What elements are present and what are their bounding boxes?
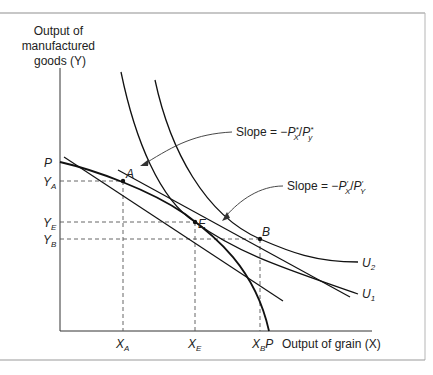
point-a-label: A: [125, 167, 134, 181]
u1-label: U1: [362, 287, 375, 303]
slope-leader-1: [146, 132, 232, 163]
dashed-guides: [60, 181, 260, 331]
y-tick-ya: YA: [43, 175, 56, 191]
y-axis-label: Output of manufactured goods (Y): [22, 24, 99, 68]
production-possibility-curve: [60, 162, 269, 331]
u2-label: U2: [362, 256, 376, 272]
y-tick-ye: YE: [43, 216, 57, 232]
y-tick-p: P: [44, 156, 52, 170]
point-e-label: E: [198, 217, 207, 231]
point-e: [193, 220, 197, 224]
x-tick-xa: XA: [115, 337, 129, 353]
slope-leader-2: [226, 186, 283, 216]
x-axis-label: Output of grain (X): [282, 337, 381, 351]
x-tick-xb: XBP: [251, 337, 273, 353]
trade-equilibrium-diagram: Output of manufactured goods (Y) Slope =…: [0, 0, 433, 375]
point-b-label: B: [262, 225, 270, 239]
slope-annotation-1: Slope = −P*X/P*y: [236, 125, 314, 142]
price-line-pre-trade: [64, 157, 283, 301]
point-a: [121, 179, 125, 183]
x-tick-xe: XE: [187, 337, 202, 353]
indifference-curve-u2: [155, 80, 358, 262]
slope-annotation-2: Slope = −P′X/P′Y: [287, 179, 366, 196]
y-tick-yb: YB: [43, 233, 57, 249]
